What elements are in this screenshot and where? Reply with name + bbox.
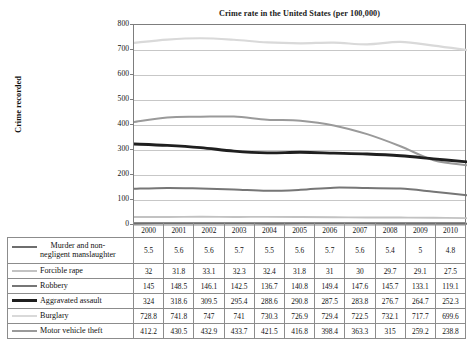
cell-2001: 318.6 (164, 294, 194, 309)
cell-2007: 30 (345, 264, 375, 279)
chart-figure: Crime rate in the United States (per 100… (0, 0, 474, 348)
cell-2008: 145.7 (375, 279, 405, 294)
cell-2000: 324 (134, 294, 164, 309)
cell-2007: 5.6 (345, 238, 375, 264)
cell-2001: 741.8 (164, 309, 194, 324)
cell-2008: 5.4 (375, 238, 405, 264)
table-row: Forcible rape3231.833.132.332.431.831302… (8, 264, 466, 279)
chart-title: Crime rate in the United States (per 100… (133, 9, 466, 18)
legend-swatch-icon (12, 285, 37, 287)
cell-2009: 29.1 (405, 264, 435, 279)
cell-2010: 27.5 (435, 264, 465, 279)
legend-label: Murder and non-negligent manslaughter (40, 242, 116, 259)
cell-2008: 732.1 (375, 309, 405, 324)
cell-2002: 747 (194, 309, 224, 324)
cell-2004: 730.3 (254, 309, 284, 324)
cell-2009: 264.7 (405, 294, 435, 309)
cell-2003: 142.5 (224, 279, 254, 294)
cell-2008: 29.7 (375, 264, 405, 279)
cell-2002: 432.9 (194, 324, 224, 339)
plot-area (133, 24, 466, 224)
cell-2007: 722.5 (345, 309, 375, 324)
cell-2004: 421.5 (254, 324, 284, 339)
y-axis-label: Crime recorded (14, 55, 23, 155)
cell-2007: 363.3 (345, 324, 375, 339)
cell-2010: 119.1 (435, 279, 465, 294)
cell-2005: 416.8 (284, 324, 314, 339)
cell-2001: 430.5 (164, 324, 194, 339)
table-body: Murder and non-negligent manslaughter5.5… (8, 238, 466, 339)
cell-2007: 147.6 (345, 279, 375, 294)
legend-swatch-icon (12, 246, 37, 248)
legend-label: Forcible rape (40, 267, 83, 276)
cell-2009: 5 (405, 238, 435, 264)
cell-2003: 32.3 (224, 264, 254, 279)
cell-2006: 149.4 (315, 279, 345, 294)
column-header-2005: 2005 (284, 223, 314, 238)
cell-2006: 398.4 (315, 324, 345, 339)
legend-header-blank (8, 223, 134, 238)
cell-2000: 5.5 (134, 238, 164, 264)
cell-2002: 146.1 (194, 279, 224, 294)
cell-2004: 5.5 (254, 238, 284, 264)
legend-swatch-icon (12, 315, 37, 317)
table-row: Murder and non-negligent manslaughter5.5… (8, 238, 466, 264)
cell-2001: 31.8 (164, 264, 194, 279)
column-header-2000: 2000 (134, 223, 164, 238)
legend-swatch-icon (12, 270, 37, 272)
cell-2006: 287.5 (315, 294, 345, 309)
cell-2008: 276.7 (375, 294, 405, 309)
legend-swatch-icon (12, 299, 37, 302)
column-header-2007: 2007 (345, 223, 375, 238)
y-tick-800: 800 (103, 19, 129, 28)
cell-2005: 31.8 (284, 264, 314, 279)
cell-2009: 133.1 (405, 279, 435, 294)
cell-2000: 145 (134, 279, 164, 294)
table-row: Robbery145148.5146.1142.5136.7140.8149.4… (8, 279, 466, 294)
cell-2008: 315 (375, 324, 405, 339)
cell-2003: 741 (224, 309, 254, 324)
column-header-2004: 2004 (254, 223, 284, 238)
cell-2002: 33.1 (194, 264, 224, 279)
y-tick-500: 500 (103, 94, 129, 103)
cell-2000: 412.2 (134, 324, 164, 339)
cell-2010: 252.3 (435, 294, 465, 309)
cell-2010: 4.8 (435, 238, 465, 264)
legend-cell-burglary: Burglary (8, 309, 134, 324)
y-tick-400: 400 (103, 119, 129, 128)
legend-cell-motor-vehicle-theft: Motor vehicle theft (8, 324, 134, 339)
cell-2003: 5.7 (224, 238, 254, 264)
column-header-2009: 2009 (405, 223, 435, 238)
series-lines (134, 25, 467, 225)
legend-label: Aggravated assault (40, 297, 102, 306)
cell-2009: 259.2 (405, 324, 435, 339)
legend-cell-murder-and-non-negligent-manslaughter: Murder and non-negligent manslaughter (8, 238, 134, 264)
column-header-2002: 2002 (194, 223, 224, 238)
cell-2006: 5.7 (315, 238, 345, 264)
cell-2001: 148.5 (164, 279, 194, 294)
cell-2004: 32.4 (254, 264, 284, 279)
cell-2000: 32 (134, 264, 164, 279)
cell-2005: 140.8 (284, 279, 314, 294)
column-header-2008: 2008 (375, 223, 405, 238)
y-tick-200: 200 (103, 169, 129, 178)
y-tick-100: 100 (103, 194, 129, 203)
column-header-2010: 2010 (435, 223, 465, 238)
y-tick-700: 700 (103, 44, 129, 53)
cell-2007: 283.8 (345, 294, 375, 309)
legend-label: Burglary (40, 312, 69, 321)
cell-2001: 5.6 (164, 238, 194, 264)
cell-2005: 726.9 (284, 309, 314, 324)
cell-2005: 290.8 (284, 294, 314, 309)
table-row: Motor vehicle theft412.2430.5432.9433.74… (8, 324, 466, 339)
data-table: 2000200120022003200420052006200720082009… (7, 222, 466, 339)
table-row: Aggravated assault324318.6309.5295.4288.… (8, 294, 466, 309)
series-line-robbery (134, 188, 467, 196)
table-row: Burglary728.8741.8747741730.3726.9729.47… (8, 309, 466, 324)
cell-2002: 309.5 (194, 294, 224, 309)
column-header-2003: 2003 (224, 223, 254, 238)
legend-label: Motor vehicle theft (40, 327, 102, 336)
cell-2004: 288.6 (254, 294, 284, 309)
cell-2010: 699.6 (435, 309, 465, 324)
column-header-2006: 2006 (315, 223, 345, 238)
